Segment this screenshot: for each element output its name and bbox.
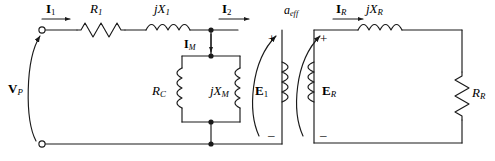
source-voltage-arrow xyxy=(28,36,40,141)
polarity-minus-er: – xyxy=(320,128,327,141)
label-series-resistance: R1 xyxy=(90,2,102,17)
circuit-diagram-canvas: I1 R1 jX1 I2 aeff IR jXR IM VP RC jXM E1… xyxy=(0,0,495,161)
label-turns-ratio: aeff xyxy=(284,4,298,18)
label-core-loss-resistance: RC xyxy=(152,84,166,99)
source-terminal-bottom xyxy=(39,141,45,147)
label-load-current: IR xyxy=(336,2,346,17)
inductor-jx1 xyxy=(146,25,190,31)
polarity-minus-e1: – xyxy=(268,128,275,141)
circuit-schematic-svg xyxy=(0,0,495,161)
label-secondary-current: I2 xyxy=(222,2,231,17)
label-load-resistance: RR xyxy=(472,86,485,101)
node-dot-bottom xyxy=(208,141,213,146)
transformer-coil-primary xyxy=(282,62,288,102)
node-dot-branch-top xyxy=(208,53,213,58)
coil-jxm xyxy=(235,68,240,108)
label-magnetizing-reactance: jXM xyxy=(210,84,229,99)
node-dot-branch-bottom xyxy=(208,119,213,124)
label-load-reactance: jXR xyxy=(366,2,383,17)
transformer-coil-secondary xyxy=(308,62,314,102)
label-induced-emf-secondary: ER xyxy=(322,84,336,99)
label-source-voltage: VP xyxy=(8,82,23,97)
node-dot-top xyxy=(208,27,213,32)
label-magnetizing-current: IM xyxy=(184,38,195,52)
polarity-plus-er: + xyxy=(320,32,327,45)
label-induced-emf-primary: E1 xyxy=(255,84,268,99)
coil-rc xyxy=(177,68,182,108)
inductor-jxr xyxy=(358,25,402,31)
label-series-reactance: jX1 xyxy=(154,2,170,17)
resistor-r1 xyxy=(77,23,125,37)
resistor-rr xyxy=(455,72,469,120)
label-primary-current: I1 xyxy=(46,2,55,17)
polarity-plus-e1: + xyxy=(268,32,275,45)
source-terminal-top xyxy=(39,27,45,33)
